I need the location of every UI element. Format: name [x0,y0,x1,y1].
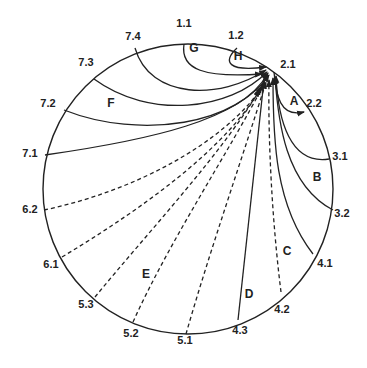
point-label: 4.3 [232,324,247,336]
region-label: F [107,96,114,110]
point-label: 4.1 [317,257,332,269]
point-label: 3.1 [332,150,347,162]
region-label: C [283,244,292,258]
outer-circle [43,44,333,334]
circular-flow-diagram: 1.11.22.12.23.13.24.14.24.35.15.25.36.16… [0,0,367,368]
curve-3-2 [275,77,333,210]
region-label: D [245,287,254,301]
point-label: 6.1 [43,258,58,270]
point-label: 7.1 [22,147,37,159]
region-label: G [189,41,198,55]
curve-4-3 [238,80,264,320]
region-label: E [142,267,150,281]
point-label: 5.1 [177,334,192,346]
point-label: 3.2 [334,207,349,219]
point-label: 7.2 [40,97,55,109]
point-label: 1.1 [176,17,191,29]
curve-7-4 [135,48,266,90]
point-label: 7.3 [78,56,93,68]
point-label: 7.4 [125,30,141,42]
point-label: 6.2 [22,203,37,215]
curve-3-1 [276,76,329,160]
point-label: 5.2 [123,327,138,339]
point-label: 1.2 [228,29,243,41]
curve-6-1 [62,88,261,257]
point-label: 5.3 [78,298,93,310]
curve-5-3 [95,86,262,297]
point-label: 4.2 [274,303,289,315]
point-label: 2.2 [306,97,321,109]
point-labels: 1.11.22.12.23.13.24.14.24.35.15.25.36.16… [22,17,349,346]
region-label: B [313,170,322,184]
curve-7-2 [64,73,268,125]
point-label: 2.1 [280,58,295,70]
region-label: A [290,94,299,108]
region-label: H [234,49,243,63]
